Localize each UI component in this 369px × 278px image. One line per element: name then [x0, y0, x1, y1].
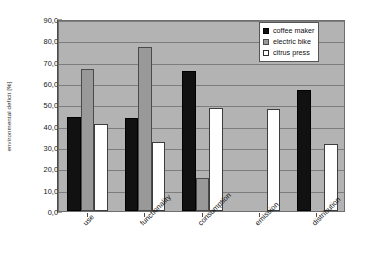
bar-coffee-maker-consumption	[182, 71, 196, 211]
legend-item-coffee-maker[interactable]: coffee maker	[263, 25, 314, 36]
y-axis-tick-label: 70,0	[24, 58, 58, 67]
y-axis-tick-label: 40,0	[24, 122, 58, 131]
bar-electric-bike-use	[81, 69, 95, 211]
legend-label: coffee maker	[273, 26, 314, 35]
y-axis-tick-label: 20,0	[24, 165, 58, 174]
chart-title-cropped: environmental deficit	[0, 0, 369, 12]
y-axis-tick-label: 60,0	[24, 80, 58, 89]
chart-legend: coffee makerelectric bikecitrus press	[259, 22, 319, 62]
y-axis-title: environmental deficit [%]	[2, 20, 16, 212]
bar-coffee-maker-functionality	[125, 118, 139, 211]
legend-label: electric bike	[273, 37, 311, 46]
y-axis-ticks: 0,010,020,030,040,050,060,070,080,090,0	[18, 20, 58, 212]
chart-title-text: environmental deficit	[144, 0, 226, 2]
y-axis-tick-label: 90,0	[24, 16, 58, 25]
legend-swatch-icon	[263, 28, 269, 34]
legend-item-electric-bike[interactable]: electric bike	[263, 36, 314, 47]
y-axis-tick-label: 30,0	[24, 144, 58, 153]
y-axis-tick-label: 0,0	[24, 208, 58, 217]
bar-coffee-maker-use	[67, 117, 81, 211]
bar-coffee-maker-distribution	[297, 90, 311, 211]
legend-swatch-icon	[263, 39, 269, 45]
legend-item-citrus-press[interactable]: citrus press	[263, 47, 314, 58]
bar-citrus-press-emission	[267, 109, 281, 211]
bar-electric-bike-functionality	[138, 47, 152, 211]
x-axis-labels: usefunctionalityconsumptionemissiondistr…	[58, 213, 345, 277]
bar-electric-bike-consumption	[196, 178, 210, 211]
y-axis-tick-label: 50,0	[24, 101, 58, 110]
y-axis-tick-label: 10,0	[24, 186, 58, 195]
chart-figure: environmental deficit environmental defi…	[0, 0, 369, 278]
y-axis-title-text: environmental deficit [%]	[6, 81, 13, 151]
legend-label: citrus press	[273, 48, 310, 57]
legend-swatch-icon	[263, 50, 269, 56]
gridline	[59, 64, 344, 65]
x-axis-label-use: use	[81, 212, 96, 227]
y-axis-tick-label: 80,0	[24, 37, 58, 46]
bar-citrus-press-use	[94, 124, 108, 211]
gridline	[59, 85, 344, 86]
